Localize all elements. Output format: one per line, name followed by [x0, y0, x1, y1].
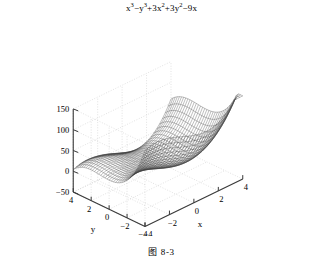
- svg-text:4: 4: [244, 182, 249, 192]
- svg-text:x: x: [198, 219, 203, 229]
- svg-text:2: 2: [219, 194, 223, 204]
- svg-text:150: 150: [56, 104, 69, 114]
- svg-text:100: 100: [56, 125, 69, 135]
- plot-title: x3−y3+3x2+3y2−9x: [0, 3, 323, 13]
- svg-text:−2: −2: [121, 221, 130, 231]
- surface-plot: −50050100150−4−2024−4−2024yx: [0, 16, 323, 236]
- svg-text:0: 0: [105, 212, 109, 222]
- surface-mesh: [73, 94, 243, 183]
- figure-container: x3−y3+3x2+3y2−9x −50050100150−4−2024−4−2…: [0, 0, 323, 275]
- svg-text:y: y: [91, 224, 96, 234]
- svg-text:−50: −50: [56, 187, 69, 197]
- svg-text:4: 4: [69, 195, 74, 205]
- svg-text:2: 2: [87, 204, 91, 214]
- svg-text:0: 0: [65, 166, 69, 176]
- svg-text:50: 50: [61, 146, 70, 156]
- svg-text:0: 0: [195, 206, 199, 216]
- svg-text:−2: −2: [168, 218, 177, 228]
- grid-walls: [73, 62, 243, 227]
- figure-caption: 图 8-3: [0, 245, 323, 258]
- svg-text:−4: −4: [143, 229, 153, 236]
